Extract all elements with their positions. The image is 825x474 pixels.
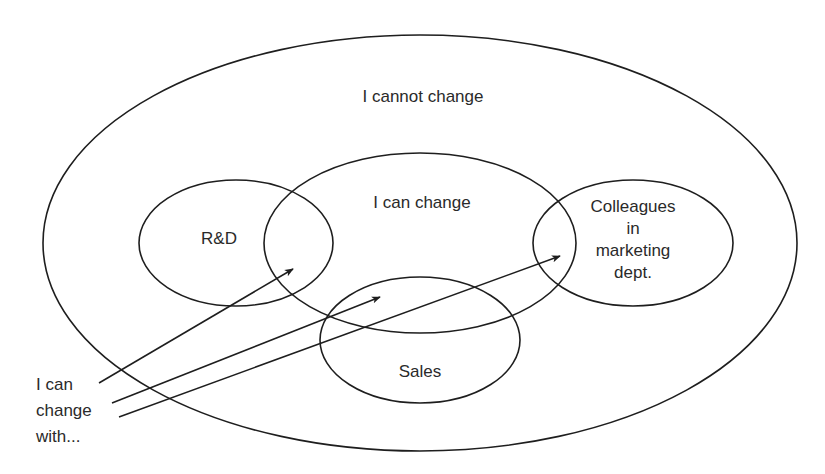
label-i-cannot-change: I cannot change: [343, 86, 503, 108]
ellipse-i-can-change: [264, 153, 576, 333]
label-colleagues-marketing: Colleagues in marketing dept.: [578, 196, 688, 284]
arrow-to-rnd-overlap: [99, 269, 293, 383]
arrow-to-sales-overlap: [112, 297, 380, 403]
label-line: in: [578, 218, 688, 240]
label-line: dept.: [578, 262, 688, 284]
label-line: marketing: [578, 240, 688, 262]
label-sales: Sales: [380, 361, 460, 383]
caption-line: with...: [36, 424, 92, 450]
label-line: Colleagues: [578, 196, 688, 218]
venn-diagram: [0, 0, 825, 474]
label-rnd: R&D: [186, 228, 252, 250]
caption-i-can-change-with: I can change with...: [36, 372, 92, 450]
ellipse-sales: [320, 277, 520, 403]
label-i-can-change: I can change: [357, 192, 487, 214]
caption-line: I can: [36, 372, 92, 398]
arrow-to-colleagues-overlap: [119, 256, 560, 417]
caption-line: change: [36, 398, 92, 424]
